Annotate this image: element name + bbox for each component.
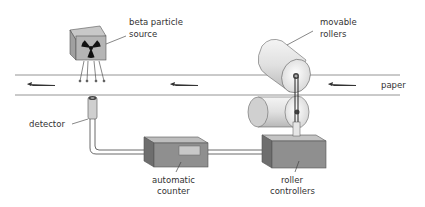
detector [88, 96, 97, 119]
label-rollers-line1: movable [320, 17, 357, 27]
arrow-left-icon [170, 82, 198, 86]
label-beta-source-line1: beta particle [129, 17, 183, 27]
label-detector: detector [29, 119, 65, 129]
rollers-leader-line [287, 31, 313, 45]
linkage-piston [293, 122, 300, 136]
detector-cable [90, 119, 146, 154]
counter-controller-cable [208, 150, 264, 154]
beta-source-box [70, 26, 106, 60]
label-rollers-line2: rollers [320, 29, 347, 39]
upper-roller [258, 39, 315, 96]
beta-rays [79, 61, 105, 82]
roller-controllers-box [262, 135, 326, 168]
detector-leader-line [72, 119, 88, 124]
arrow-left-icon [328, 82, 356, 86]
beta-gauge-diagram: beta particle source detector automatic … [0, 0, 425, 207]
label-counter-line1: automatic [152, 175, 195, 185]
label-paper: paper [381, 80, 406, 90]
label-counter-line2: counter [157, 186, 190, 196]
arrow-left-icon [27, 82, 55, 86]
label-controllers-line2: controllers [270, 186, 316, 196]
label-controllers-line1: roller [281, 175, 303, 185]
counter-display [179, 146, 200, 155]
source-leader-line [106, 36, 126, 44]
label-beta-source-line2: source [129, 29, 157, 39]
